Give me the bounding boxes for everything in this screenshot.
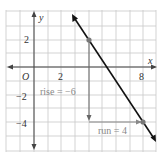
y-tick-label-neg4: −4 bbox=[16, 118, 27, 129]
axes bbox=[7, 11, 157, 150]
y-axis-up-arrow-icon bbox=[32, 11, 37, 17]
y-axis-down-arrow-icon bbox=[32, 144, 37, 150]
run-label: run = 4 bbox=[98, 125, 127, 136]
coordinate-graph: y x O 2 8 2 −2 −4 rise = −6 run = 4 bbox=[0, 0, 159, 154]
x-tick-label-8: 8 bbox=[139, 71, 144, 82]
x-axis-label: x bbox=[147, 55, 153, 66]
rise-label: rise = −6 bbox=[40, 86, 76, 97]
origin-label: O bbox=[22, 71, 29, 82]
rise-arrowhead-icon bbox=[87, 115, 92, 121]
y-axis-label: y bbox=[38, 12, 44, 23]
x-axis-left-arrow-icon bbox=[7, 65, 13, 70]
y-tick-label-2: 2 bbox=[24, 34, 29, 45]
point-8-neg4 bbox=[140, 119, 145, 124]
y-tick-label-neg2: −2 bbox=[16, 91, 27, 102]
x-tick-label-2: 2 bbox=[58, 71, 63, 82]
point-4-2 bbox=[86, 37, 91, 42]
